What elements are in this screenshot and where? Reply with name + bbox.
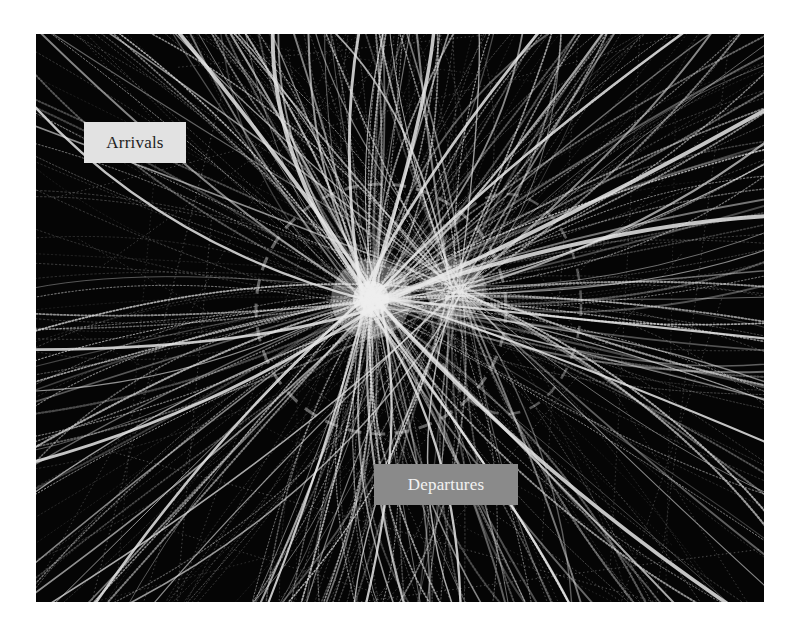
flight-tracks-canvas: [36, 34, 764, 602]
flight-tracks-figure: [36, 34, 764, 602]
departures-label-text: Departures: [408, 475, 485, 495]
arrivals-label-text: Arrivals: [106, 133, 163, 153]
departures-label: Departures: [374, 464, 518, 505]
arrivals-label: Arrivals: [84, 122, 186, 163]
